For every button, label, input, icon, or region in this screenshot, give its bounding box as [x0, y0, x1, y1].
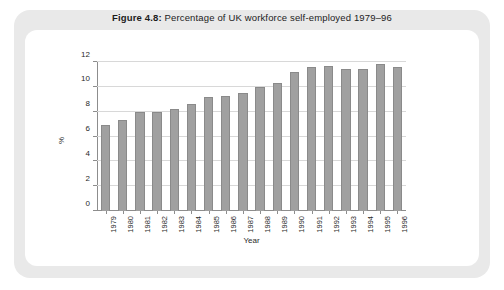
x-tick-label: 1995 — [383, 216, 392, 233]
y-tick-label: 4 — [86, 148, 90, 157]
x-tick-mark — [106, 211, 107, 214]
y-tick-mark — [93, 61, 97, 62]
x-tick-label: 1992 — [332, 216, 341, 233]
x-tick-mark — [209, 211, 210, 214]
bar — [135, 112, 144, 211]
bar — [187, 104, 196, 211]
x-tick-mark — [226, 211, 227, 214]
x-tick-mark — [397, 211, 398, 214]
x-tick-label: 1983 — [177, 216, 186, 233]
x-tick-label: 1993 — [349, 216, 358, 233]
x-tick-mark — [294, 211, 295, 214]
y-tick-mark — [93, 111, 97, 112]
x-tick-mark — [123, 211, 124, 214]
x-tick-mark — [243, 211, 244, 214]
x-tick-label: 1990 — [297, 216, 306, 233]
x-tick-mark — [174, 211, 175, 214]
bar — [170, 109, 179, 211]
x-tick-mark — [260, 211, 261, 214]
x-tick-label: 1979 — [109, 216, 118, 233]
x-tick-label: 1996 — [400, 216, 409, 233]
x-tick-label: 1986 — [229, 216, 238, 233]
bar — [204, 97, 213, 211]
y-tick-mark — [93, 210, 97, 211]
x-tick-mark — [191, 211, 192, 214]
y-axis-title: % — [57, 137, 66, 144]
y-tick-label: 6 — [86, 124, 90, 133]
x-tick-mark — [380, 211, 381, 214]
x-tick-label: 1984 — [194, 216, 203, 233]
bar — [221, 96, 230, 211]
bar — [238, 93, 247, 211]
bar — [118, 120, 127, 211]
y-tick-mark — [93, 136, 97, 137]
figure-caption-text: Percentage of UK workforce self-employed… — [165, 12, 392, 23]
y-tick-label: 2 — [86, 173, 90, 182]
x-tick-mark — [346, 211, 347, 214]
bar — [341, 69, 350, 211]
bar — [273, 83, 282, 211]
bar-chart: % 024681012 1979198019811982198319841985… — [25, 30, 479, 266]
bar — [255, 87, 264, 211]
figure-page: Figure 4.8: Percentage of UK workforce s… — [0, 0, 504, 290]
y-tick-label: 8 — [86, 99, 90, 108]
y-tick-mark — [93, 160, 97, 161]
x-tick-label: 1982 — [160, 216, 169, 233]
y-tick-mark — [93, 86, 97, 87]
x-tick-label: 1981 — [143, 216, 152, 233]
bar — [307, 67, 316, 211]
x-tick-mark — [312, 211, 313, 214]
figure-title: Figure 4.8: Percentage of UK workforce s… — [14, 12, 490, 23]
bar — [376, 64, 385, 211]
x-tick-mark — [329, 211, 330, 214]
x-tick-label: 1994 — [366, 216, 375, 233]
x-tick-label: 1988 — [263, 216, 272, 233]
x-tick-mark — [363, 211, 364, 214]
y-tick-label: 10 — [81, 74, 90, 83]
x-tick-label: 1987 — [246, 216, 255, 233]
x-tick-label: 1980 — [126, 216, 135, 233]
bar — [290, 72, 299, 211]
gridline — [97, 61, 406, 62]
bar — [101, 125, 110, 211]
bar — [393, 67, 402, 211]
x-tick-label: 1989 — [280, 216, 289, 233]
figure-number-label: Figure 4.8: — [112, 12, 162, 23]
chart-card: % 024681012 1979198019811982198319841985… — [25, 30, 479, 266]
bar — [358, 69, 367, 211]
x-tick-label: 1985 — [212, 216, 221, 233]
plot-area: 024681012 197919801981198219831984198519… — [97, 62, 406, 211]
x-tick-mark — [157, 211, 158, 214]
x-axis-title: Year — [97, 236, 406, 245]
bar — [324, 66, 333, 211]
x-tick-mark — [277, 211, 278, 214]
y-tick-label: 0 — [86, 198, 90, 207]
bar — [152, 112, 161, 211]
y-tick-mark — [93, 185, 97, 186]
x-tick-label: 1991 — [315, 216, 324, 233]
y-tick-label: 12 — [81, 49, 90, 58]
x-tick-mark — [140, 211, 141, 214]
